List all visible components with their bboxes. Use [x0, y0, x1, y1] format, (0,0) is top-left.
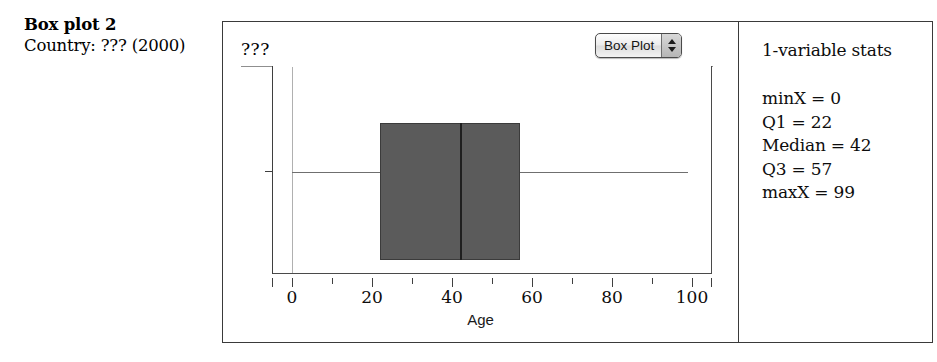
- plot-type-stepper[interactable]: [661, 34, 681, 57]
- plot-pane: ??? Box Plot 020406080100 Age: [223, 22, 738, 342]
- stats-pane: 1-variable stats minX = 0Q1 = 22Median =…: [740, 22, 932, 342]
- stat-row: minX = 0: [762, 87, 932, 111]
- x-tick-label: 0: [287, 287, 298, 307]
- x-tick-label: 60: [521, 287, 543, 307]
- triangle-down-icon: [668, 47, 676, 52]
- x-axis-tick-labels: 020406080100: [272, 287, 712, 309]
- stats-title: 1-variable stats: [762, 40, 932, 60]
- x-tick: [612, 278, 613, 287]
- stat-row: Median = 42: [762, 134, 932, 158]
- x-tick-label: 20: [361, 287, 383, 307]
- x-axis-right-cap: [711, 278, 712, 287]
- x-tick-label: 40: [441, 287, 463, 307]
- zero-gridline: [292, 67, 293, 273]
- x-tick: [332, 278, 333, 284]
- plot-type-dropdown-label: Box Plot: [596, 34, 661, 57]
- figure-caption: Box plot 2 Country: ??? (2000): [24, 14, 220, 57]
- stat-row: Q3 = 57: [762, 158, 932, 182]
- stat-row: Q1 = 22: [762, 111, 932, 135]
- y-axis-spine: [272, 66, 273, 274]
- triangle-up-icon: [668, 39, 676, 44]
- variable-label: ???: [241, 41, 270, 58]
- stats-list: minX = 0Q1 = 22Median = 42Q3 = 57maxX = …: [762, 87, 932, 205]
- figure-title: Box plot 2: [24, 14, 220, 35]
- y-axis-tick: [265, 171, 273, 172]
- boxplot-median-line: [460, 123, 462, 260]
- x-axis-ticks: [272, 278, 712, 287]
- x-tick: [452, 278, 453, 287]
- boxplot-box[interactable]: [380, 123, 520, 260]
- x-tick: [372, 278, 373, 287]
- x-tick: [572, 278, 573, 284]
- x-tick: [652, 278, 653, 284]
- x-tick: [412, 278, 413, 284]
- x-tick: [492, 278, 493, 284]
- x-tick: [292, 278, 293, 287]
- x-tick-label: 100: [676, 287, 708, 307]
- x-axis-title: Age: [223, 311, 738, 328]
- figure-subtitle: Country: ??? (2000): [24, 35, 220, 57]
- stat-row: maxX = 99: [762, 181, 932, 205]
- x-tick: [532, 278, 533, 287]
- x-axis-left-cap: [272, 278, 273, 287]
- stats-window: ??? Box Plot 020406080100 Age 1-variable…: [222, 21, 933, 343]
- x-tick: [692, 278, 693, 287]
- x-tick-label: 80: [601, 287, 623, 307]
- plot-type-dropdown[interactable]: Box Plot: [595, 33, 682, 58]
